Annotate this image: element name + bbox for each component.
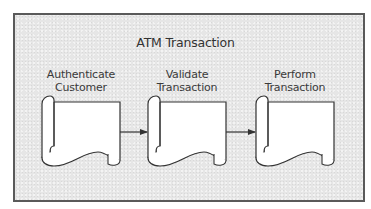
diagram-canvas bbox=[0, 0, 371, 209]
scroll-perform-transaction bbox=[256, 96, 334, 166]
scroll-authenticate-customer bbox=[42, 96, 120, 166]
scroll-validate-transaction bbox=[148, 96, 226, 166]
